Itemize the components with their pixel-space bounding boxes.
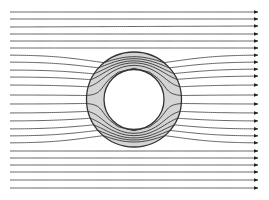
streamline-diagram — [0, 0, 269, 200]
cylinder-core — [104, 70, 164, 130]
streamline — [10, 26, 258, 27]
